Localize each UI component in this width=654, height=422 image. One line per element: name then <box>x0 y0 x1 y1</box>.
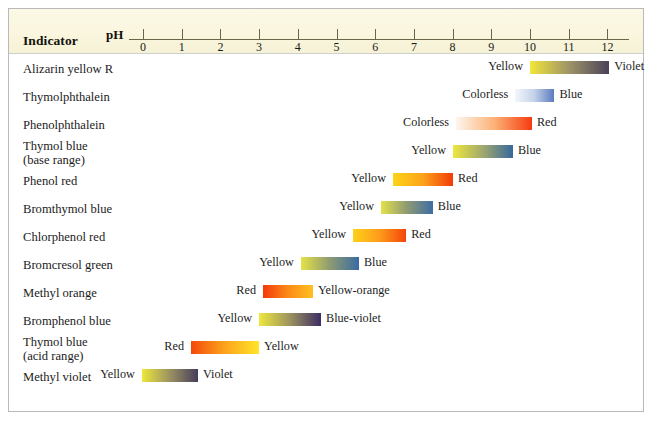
axis-tick-label: 11 <box>559 40 579 55</box>
axis-tick <box>607 29 608 39</box>
indicator-row: Bromcresol greenYellowBlue <box>9 252 643 280</box>
axis-tick-label: 6 <box>365 40 385 55</box>
base-color-label: Red <box>411 227 431 242</box>
base-color-label: Yellow-orange <box>318 283 390 298</box>
indicator-color-bar <box>530 61 609 74</box>
indicator-name: Thymol blue (base range) <box>23 139 88 167</box>
indicator-row: PhenolphthaleinColorlessRed <box>9 112 643 140</box>
axis-tick-label: 10 <box>520 40 540 55</box>
indicator-name: Chlorphenol red <box>23 230 105 244</box>
indicator-color-bar <box>393 173 453 186</box>
base-color-label: Yellow <box>264 339 299 354</box>
indicator-name: Bromcresol green <box>23 258 113 272</box>
ph-axis: 0123456789101112 <box>9 9 643 54</box>
base-color-label: Blue-violet <box>326 311 381 326</box>
axis-tick-label: 7 <box>404 40 424 55</box>
indicator-color-bar <box>515 89 554 102</box>
indicator-row: Methyl orangeRedYellow-orange <box>9 280 643 308</box>
indicator-name: Bromthymol blue <box>23 202 112 216</box>
axis-tick-label: 12 <box>597 40 617 55</box>
acid-color-label: Yellow <box>411 143 446 158</box>
acid-color-label: Yellow <box>339 199 374 214</box>
indicator-color-bar <box>353 229 406 242</box>
indicator-color-bar <box>456 117 532 130</box>
axis-tick-label: 9 <box>481 40 501 55</box>
axis-tick <box>259 29 260 39</box>
indicator-color-bar <box>301 257 359 270</box>
axis-tick-label: 1 <box>172 40 192 55</box>
ph-indicator-chart: Indicator pH 0123456789101112 Alizarin y… <box>8 8 644 412</box>
axis-tick <box>220 29 221 39</box>
base-color-label: Red <box>537 115 557 130</box>
indicator-row: Bromthymol blueYellowBlue <box>9 196 643 224</box>
axis-tick-label: 4 <box>288 40 308 55</box>
indicator-row: Thymol blue (acid range)RedYellow <box>9 336 643 364</box>
acid-color-label: Yellow <box>351 171 386 186</box>
axis-tick <box>453 29 454 39</box>
axis-tick <box>414 29 415 39</box>
axis-tick-label: 2 <box>210 40 230 55</box>
base-color-label: Blue <box>559 87 582 102</box>
acid-color-label: Yellow <box>100 367 135 382</box>
ph-axis-label: pH <box>106 27 123 43</box>
indicator-row: Methyl violetYellowViolet <box>9 364 643 392</box>
axis-tick <box>491 29 492 39</box>
axis-tick-label: 3 <box>249 40 269 55</box>
acid-color-label: Colorless <box>462 87 508 102</box>
indicator-name: Methyl violet <box>23 370 91 384</box>
axis-tick <box>143 29 144 39</box>
base-color-label: Red <box>458 171 478 186</box>
indicator-rows: Alizarin yellow RYellowVioletThymolphtha… <box>9 54 643 412</box>
indicator-name: Thymol blue (acid range) <box>23 335 88 363</box>
indicator-name: Bromphenol blue <box>23 314 111 328</box>
axis-tick-label: 5 <box>327 40 347 55</box>
axis-tick-label: 8 <box>443 40 463 55</box>
indicator-color-bar <box>142 369 198 382</box>
indicator-row: ThymolphthaleinColorlessBlue <box>9 84 643 112</box>
axis-tick <box>530 29 531 39</box>
base-color-label: Blue <box>364 255 387 270</box>
axis-tick <box>375 29 376 39</box>
axis-tick <box>182 29 183 39</box>
indicator-name: Phenolphthalein <box>23 118 105 132</box>
acid-color-label: Yellow <box>259 255 294 270</box>
indicator-name: Thymolphthalein <box>23 90 110 104</box>
indicator-name: Alizarin yellow R <box>23 62 113 76</box>
indicator-color-bar <box>263 285 313 298</box>
base-color-label: Blue <box>518 143 541 158</box>
acid-color-label: Yellow <box>217 311 252 326</box>
axis-tick-label: 0 <box>133 40 153 55</box>
indicator-row: Thymol blue (base range)YellowBlue <box>9 140 643 168</box>
indicator-name: Methyl orange <box>23 286 97 300</box>
indicator-color-bar <box>259 313 321 326</box>
axis-tick <box>298 29 299 39</box>
base-color-label: Blue <box>438 199 461 214</box>
acid-color-label: Red <box>236 283 256 298</box>
indicator-column-header: Indicator <box>23 33 78 49</box>
ph-axis-line <box>129 39 629 40</box>
indicator-color-bar <box>453 145 513 158</box>
axis-tick <box>337 29 338 39</box>
base-color-label: Violet <box>203 367 233 382</box>
acid-color-label: Red <box>164 339 184 354</box>
indicator-row: Chlorphenol redYellowRed <box>9 224 643 252</box>
chart-header-band: Indicator pH 0123456789101112 <box>9 9 643 54</box>
acid-color-label: Yellow <box>488 59 523 74</box>
indicator-row: Phenol redYellowRed <box>9 168 643 196</box>
acid-color-label: Colorless <box>403 115 449 130</box>
base-color-label: Violet <box>614 59 644 74</box>
indicator-color-bar <box>381 201 433 214</box>
acid-color-label: Yellow <box>311 227 346 242</box>
indicator-name: Phenol red <box>23 174 77 188</box>
indicator-color-bar <box>191 341 259 354</box>
indicator-row: Bromphenol blueYellowBlue-violet <box>9 308 643 336</box>
axis-tick <box>569 29 570 39</box>
indicator-row: Alizarin yellow RYellowViolet <box>9 56 643 84</box>
